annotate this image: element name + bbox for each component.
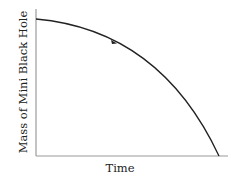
chart-canvas — [0, 0, 243, 182]
mass-curve — [36, 19, 219, 156]
y-axis-label: Mass of Mini Black Hole — [16, 7, 30, 157]
x-axis-label: Time — [95, 161, 145, 175]
